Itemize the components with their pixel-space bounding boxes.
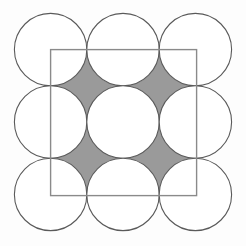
circle-middle-center [87,86,159,158]
geometry-figure-svg: Nine tangent circles in a 3 by 3 packing… [0,0,246,246]
figure-root: Nine tangent circles in a 3 by 3 packing… [0,0,246,246]
circle-bottom-right [159,158,231,230]
circle-bottom-center [87,158,159,230]
circle-layer [14,13,231,230]
circle-middle-right [159,86,231,158]
